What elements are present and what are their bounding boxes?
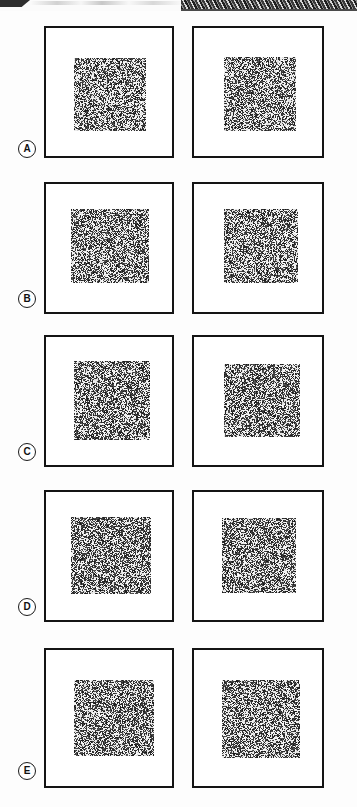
panel-b-right	[192, 182, 324, 314]
row-label-e: E	[18, 762, 36, 780]
panel-d-right	[192, 490, 324, 622]
scan-artifact-faint-band	[30, 1, 180, 5]
panel-b-right-noise-patch	[224, 209, 298, 283]
row-label-a: A	[18, 140, 36, 158]
row-label-b: B	[18, 290, 36, 308]
row-label-c: C	[18, 443, 36, 461]
panel-a-right-noise-patch	[224, 57, 296, 131]
panel-d-left	[44, 490, 174, 622]
panel-e-right	[192, 648, 324, 788]
scan-artifact-hatch-band	[181, 0, 357, 9]
panel-b-left	[44, 182, 174, 314]
panel-a-right	[192, 26, 324, 158]
panel-d-right-noise-patch	[222, 518, 296, 593]
panel-e-right-noise-patch	[222, 680, 300, 758]
panel-d-left-noise-patch	[71, 517, 151, 594]
row-label-d: D	[18, 598, 36, 616]
scan-artifact-strip	[0, 0, 357, 11]
panel-e-left-noise-patch	[74, 680, 154, 756]
panel-b-left-noise-patch	[71, 209, 149, 283]
panel-c-left	[44, 335, 174, 467]
panel-e-left	[44, 648, 174, 788]
figure-root: ABCDE	[0, 0, 357, 807]
panel-c-left-noise-patch	[74, 361, 150, 440]
panel-c-right	[192, 335, 324, 467]
scan-artifact-left-block	[0, 0, 30, 7]
panel-c-right-noise-patch	[224, 364, 300, 437]
panel-a-left-noise-patch	[74, 58, 146, 131]
scan-artifact-underline	[181, 9, 357, 11]
panel-a-left	[44, 26, 174, 158]
